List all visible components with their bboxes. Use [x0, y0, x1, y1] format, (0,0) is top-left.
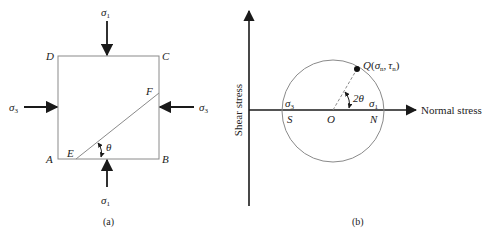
corner-label-c: C	[162, 50, 170, 62]
point-q-label: Q(σn,τn)	[363, 59, 400, 73]
caption-b: (b)	[352, 216, 364, 228]
failure-plane-ef	[76, 93, 159, 159]
corner-label-a: A	[45, 153, 53, 165]
left-sigma3-label: σ3	[9, 101, 18, 115]
normal-stress-axis-label: Normal stress	[421, 104, 482, 116]
figure-a-stress-element: D C A B E F θ σ1 σ1 σ3 σ3 (a)	[9, 6, 208, 228]
figure-b-mohr-circle: 2θ σ3 σ1 S O N Q(σn,τn) Normal stress Sh…	[232, 11, 482, 228]
shear-stress-axis-label: Shear stress	[232, 84, 244, 136]
theta-angle-arc-icon	[98, 143, 102, 157]
point-label-f: F	[145, 85, 153, 97]
theta-label: θ	[106, 141, 112, 153]
corner-label-b: B	[162, 153, 169, 165]
mohr-circle-figure: D C A B E F θ σ1 σ1 σ3 σ3 (a)	[0, 0, 485, 238]
top-sigma1-label: σ1	[101, 6, 110, 20]
caption-a: (a)	[103, 216, 114, 228]
sigma3-point-label: σ3	[285, 97, 294, 111]
bottom-sigma1-label: σ1	[101, 194, 110, 208]
point-q-marker	[354, 66, 360, 72]
point-label-e: E	[66, 147, 74, 159]
corner-label-d: D	[45, 50, 54, 62]
point-label-s: S	[287, 113, 293, 125]
two-theta-angle-arc-icon	[345, 92, 350, 108]
sigma1-point-label: σ1	[369, 97, 378, 111]
point-label-o: O	[327, 113, 335, 125]
two-theta-label: 2θ	[353, 92, 365, 104]
mohr-circle	[282, 60, 384, 162]
right-sigma3-label: σ3	[199, 101, 208, 115]
point-label-n: N	[369, 113, 378, 125]
